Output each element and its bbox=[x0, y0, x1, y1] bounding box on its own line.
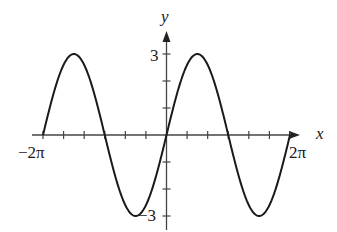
x-axis-label: x bbox=[315, 124, 324, 143]
y-axis-arrow-icon bbox=[163, 31, 171, 42]
y-max-label: 3 bbox=[150, 46, 159, 65]
y-min-label: −3 bbox=[138, 206, 156, 225]
y-axis-label: y bbox=[159, 7, 169, 26]
x-max-label: 2π bbox=[289, 143, 307, 162]
sine-plot: y x 3 −3 −2π 2π bbox=[0, 0, 337, 232]
x-axis-arrow-icon bbox=[289, 131, 300, 139]
axes bbox=[32, 31, 300, 230]
x-min-label: −2π bbox=[18, 143, 45, 162]
